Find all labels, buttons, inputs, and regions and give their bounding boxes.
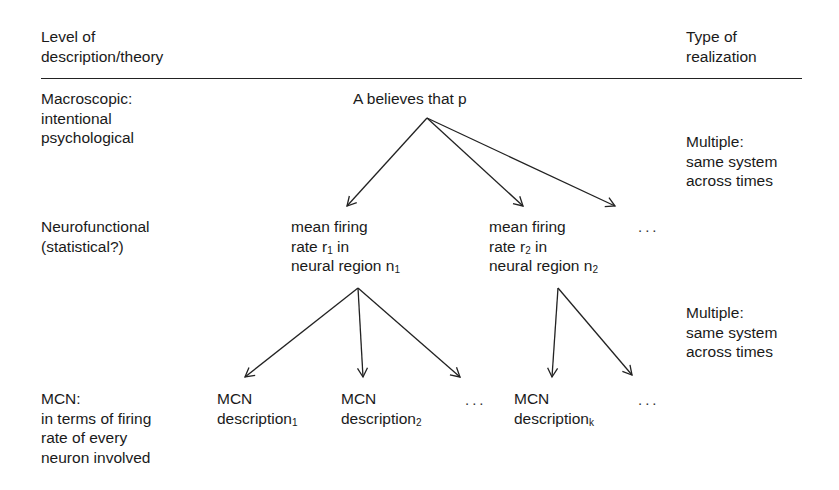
arrows-layer: [0, 0, 839, 490]
arrow-neuro1-to-mcn1: [245, 288, 358, 377]
arrow-root-to-neuro1: [347, 118, 427, 206]
arrow-root-to-neuro2: [427, 118, 523, 206]
arrow-neuro1-to-mcn2: [358, 288, 363, 377]
arrow-neuro1-to-more: [358, 288, 460, 377]
arrow-neuro2-to-mcnk: [552, 288, 558, 377]
arrow-neuro2-to-more: [558, 288, 632, 375]
arrow-root-to-more: [427, 118, 615, 206]
